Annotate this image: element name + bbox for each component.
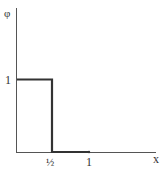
y-tick-label-1: 1	[5, 73, 11, 87]
endpoint-marker	[88, 151, 90, 153]
x-axis-label: x	[153, 152, 159, 166]
step-function-plot: φ 1 ½ 1 x	[0, 0, 166, 176]
x-tick-label-half: ½	[46, 156, 54, 168]
function-curve	[17, 80, 89, 153]
y-axis-label: φ	[4, 7, 10, 19]
x-tick-label-1: 1	[86, 155, 92, 169]
